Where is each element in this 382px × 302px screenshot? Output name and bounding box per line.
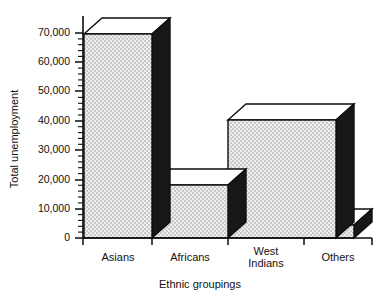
y-tick-label: 60,000: [38, 55, 70, 67]
bar-group-west-indians: [228, 104, 354, 238]
y-tick-label: 20,000: [38, 173, 70, 185]
category-label-asians: Asians: [101, 251, 135, 263]
category-label-others: Others: [321, 251, 355, 263]
y-axis-title: Total unemployment: [8, 90, 20, 188]
category-label-west-indians-line1: West: [254, 245, 279, 257]
category-label-africans: Africans: [170, 251, 210, 263]
y-tick-label: 70,000: [38, 26, 70, 38]
y-tick-label: 40,000: [38, 114, 70, 126]
category-label-west-indians-line2: Indians: [248, 257, 284, 269]
bar-group-asians: [84, 18, 170, 238]
y-tick-label: 0: [64, 231, 70, 243]
y-tick-label: 10,000: [38, 202, 70, 214]
y-tick-label: 50,000: [38, 84, 70, 96]
bar-chart: Total unemployment 70,000 60,000 50,000 …: [0, 0, 382, 302]
x-axis-title: Ethnic groupings: [159, 278, 241, 290]
y-tick-label: 30,000: [38, 143, 70, 155]
chart-canvas: Total unemployment 70,000 60,000 50,000 …: [0, 0, 382, 302]
